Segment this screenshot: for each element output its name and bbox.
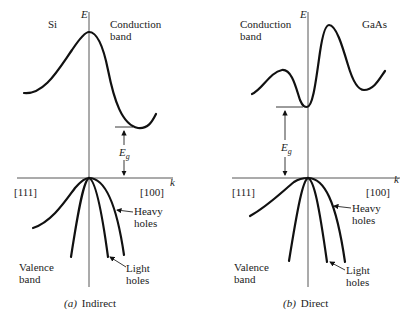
conduction-band-label-line2: band xyxy=(240,30,262,42)
energy-axis-label: E xyxy=(299,8,307,20)
valence-band-label-line1: Valence xyxy=(19,261,54,273)
band-gap-label: Eg xyxy=(118,146,130,161)
valence-band-label-line1: Valence xyxy=(234,261,269,273)
conduction-band-label-line2: band xyxy=(110,30,132,42)
direction-111-label: [111] xyxy=(14,186,37,198)
valence-band-label-line2: band xyxy=(234,273,256,285)
k-axis-label: k xyxy=(170,176,176,188)
heavy-holes-pointer xyxy=(334,206,351,208)
conduction-band-curve xyxy=(252,25,385,107)
light-holes-label-line1: Light xyxy=(126,262,150,274)
caption-direct: (b)Direct xyxy=(283,297,328,310)
direction-100-label: [100] xyxy=(366,186,390,198)
material-label: GaAs xyxy=(362,18,387,30)
energy-axis-label: E xyxy=(80,8,88,20)
heavy-holes-label-line2: holes xyxy=(134,217,157,229)
valence-band-label-line2: band xyxy=(19,273,41,285)
heavy-holes-pointer xyxy=(117,210,133,212)
light-holes-pointer xyxy=(110,257,126,267)
conduction-band-curve xyxy=(24,32,156,128)
light-holes-label-line1: Light xyxy=(346,264,370,276)
panel-indirect-si: E k Si Conduction band Eg [111] [100] He… xyxy=(14,8,176,310)
panel-direct-gaas: E k GaAs Conduction band Eg [111] [100] … xyxy=(232,8,400,310)
k-axis-label: k xyxy=(394,173,400,185)
material-label: Si xyxy=(48,18,57,30)
light-holes-label-line2: holes xyxy=(346,276,369,288)
caption-indirect: (a)Indirect xyxy=(64,297,116,310)
direction-111-label: [111] xyxy=(232,186,255,198)
conduction-band-label-line1: Conduction xyxy=(240,18,292,30)
light-holes-left-curve xyxy=(289,178,308,261)
band-gap-label: Eg xyxy=(280,141,292,156)
light-holes-label-line2: holes xyxy=(126,274,149,286)
direction-100-label: [100] xyxy=(140,186,164,198)
heavy-holes-label-line1: Heavy xyxy=(352,202,381,214)
band-structure-diagram: E k Si Conduction band Eg [111] [100] He… xyxy=(0,0,407,323)
light-holes-curve xyxy=(308,178,327,262)
valence-band-111-curve xyxy=(250,178,308,216)
heavy-holes-label-line2: holes xyxy=(352,214,375,226)
light-holes-pointer xyxy=(330,262,345,270)
heavy-holes-label-line1: Heavy xyxy=(134,205,163,217)
conduction-band-label-line1: Conduction xyxy=(110,18,162,30)
